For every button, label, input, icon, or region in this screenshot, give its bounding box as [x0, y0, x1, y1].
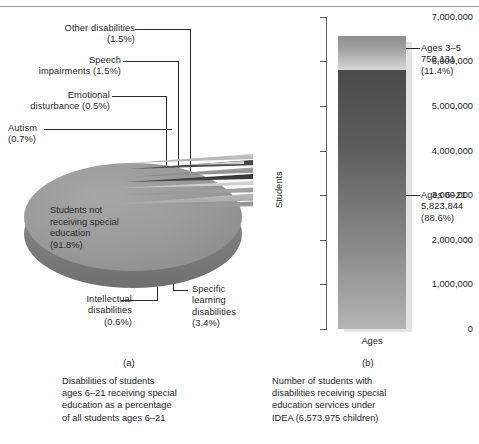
y-tick-7000000	[320, 17, 327, 18]
y-tick-label-1000000: 1,000,000	[415, 279, 473, 289]
bar-stacked-ages[interactable]	[338, 36, 406, 329]
y-tick-5000000	[320, 106, 327, 107]
x-axis-category-label: Ages	[338, 336, 406, 346]
y-tick-label-4000000: 4,000,000	[415, 146, 473, 156]
annotation-ages-6-21: Ages 6–21 5,823,844 (88.6%)	[421, 190, 479, 224]
y-tick-label-5000000: 5,000,000	[415, 101, 473, 111]
y-tick-label-2000000: 2,000,000	[415, 235, 473, 245]
panel-b-bar-chart: 7,000,000 6,000,000 5,000,000 4,000,000 …	[258, 8, 473, 338]
y-axis-line	[326, 17, 327, 329]
annotation-ages-3-5: Ages 3–5 750,131 (11.4%)	[421, 43, 479, 77]
pie-label-specific-learning-disabilities: Specific learning disabilities (3.4%)	[192, 284, 256, 330]
panel-b-letter: (b)	[362, 357, 374, 368]
y-tick-label-0: 0	[415, 324, 473, 334]
y-tick-label-7000000: 7,000,000	[415, 12, 473, 22]
bar-segment-ages-6-21[interactable]	[338, 70, 406, 329]
y-tick-0	[320, 329, 327, 330]
y-tick-1000000	[320, 284, 327, 285]
y-tick-6000000	[320, 61, 327, 62]
y-tick-3000000	[320, 195, 327, 196]
pie-label-autism: Autism (0.7%)	[8, 123, 68, 146]
pie-center-label: Students not receiving special education…	[50, 205, 119, 251]
top-divider	[0, 6, 479, 7]
panel-a-letter: (a)	[123, 357, 135, 368]
leader-ages-3-5	[406, 48, 420, 49]
y-axis-title: Students	[274, 171, 284, 208]
panel-b-caption: Number of students with disabilities rec…	[272, 375, 452, 424]
leader-ages-6-21	[406, 195, 420, 196]
leader-emotional-h	[112, 96, 167, 97]
panel-a-caption: Disabilities of students ages 6–21 recei…	[62, 375, 232, 424]
figure-container: Students not receiving special education…	[0, 0, 479, 444]
y-tick-2000000	[320, 240, 327, 241]
leader-speech-h	[123, 61, 179, 62]
pie-label-intellectual-disabilities: Intellectual disabilities (0.6%)	[62, 294, 132, 328]
pie-label-speech-impairments: Speech impairments (1.5%)	[25, 55, 121, 78]
bar-segment-ages-3-5[interactable]	[338, 36, 406, 70]
pie-label-emotional-disturbance: Emotional disturbance (0.5%)	[15, 90, 110, 113]
leader-other-h	[135, 29, 191, 30]
pie-label-other-disabilities: Other disabilities (1.5%)	[25, 23, 135, 46]
y-tick-4000000	[320, 151, 327, 152]
